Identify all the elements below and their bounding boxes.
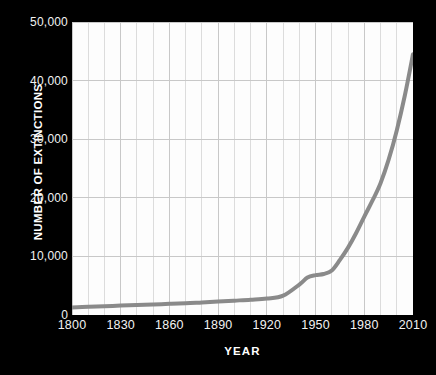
y-axis-tick-label: 40,000 [12, 75, 68, 87]
extinctions-line-chart: NUMBER OF EXTINCTIONS 010,00020,00030,00… [0, 0, 436, 375]
y-axis-tick-label: 30,000 [12, 133, 68, 145]
y-axis-tick-label: 50,000 [12, 16, 68, 28]
plot-area [72, 22, 413, 315]
x-axis-tick-labels: 18001830186018901920195019802010 [72, 318, 413, 338]
x-axis-tick-label: 2010 [383, 318, 436, 332]
y-axis-tick-label: 20,000 [12, 192, 68, 204]
y-axis-tick-label: 10,000 [12, 250, 68, 262]
extinctions-series-line [72, 22, 413, 315]
x-axis-title: YEAR [72, 345, 413, 357]
